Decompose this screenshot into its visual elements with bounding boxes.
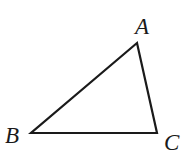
triangle-diagram: A B C	[0, 0, 182, 160]
vertex-label-a: A	[133, 14, 150, 39]
vertex-label-c: C	[164, 130, 180, 155]
vertex-label-b: B	[5, 123, 19, 148]
triangle-abc	[31, 43, 157, 133]
